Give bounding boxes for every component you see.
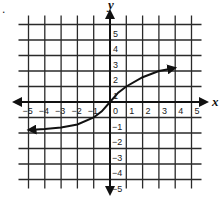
y-axis-label: y	[106, 0, 114, 12]
y-tick-label: −4	[112, 168, 122, 178]
y-tick-label: 5	[113, 29, 118, 39]
x-tick-label: 5	[195, 106, 200, 116]
x-tick-labels: −5−4−3−2−1012345	[23, 106, 200, 116]
x-tick-label: −2	[71, 106, 81, 116]
x-tick-label: −3	[55, 106, 65, 116]
coordinate-plane: . x y −5−4−3−2−1012345 54321−1−2−3−4−5	[0, 0, 223, 211]
y-tick-label: 4	[113, 44, 118, 54]
y-tick-label: 2	[113, 75, 118, 85]
y-tick-label: −3	[112, 153, 122, 163]
x-tick-label: 2	[146, 106, 151, 116]
x-tick-label: 4	[178, 106, 183, 116]
y-tick-label: −2	[112, 137, 122, 147]
function-curve	[29, 68, 176, 130]
x-tick-label: 1	[129, 106, 134, 116]
question-marker: .	[2, 2, 5, 16]
x-tick-label: 0	[113, 106, 118, 116]
x-tick-label: −4	[39, 106, 49, 116]
y-tick-label: −1	[112, 122, 122, 132]
x-axis-label: x	[211, 94, 219, 109]
x-tick-label: −5	[23, 106, 33, 116]
y-tick-label: −5	[112, 184, 122, 194]
x-tick-label: 3	[162, 106, 167, 116]
y-tick-label: 3	[113, 60, 118, 70]
